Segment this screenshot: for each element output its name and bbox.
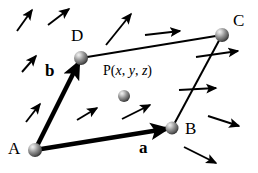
p-label-sep1: , <box>122 63 129 78</box>
sphere-A <box>28 143 42 157</box>
vector-label-a: a <box>139 139 148 156</box>
p-label-prefix: P( <box>103 63 115 78</box>
vector-label-b: b <box>45 62 54 79</box>
field-arrow <box>26 104 40 122</box>
field-arrow <box>22 56 36 72</box>
vertex-spheres <box>28 28 229 157</box>
vector-field-parallelogram-figure: A B C D P(x, y, z) a b <box>0 0 258 173</box>
point-label-P: P(x, y, z) <box>103 64 152 78</box>
figure-canvas <box>0 0 258 173</box>
parallelogram-edges <box>81 35 222 128</box>
point-label-D: D <box>71 27 83 44</box>
edge-BC <box>172 35 222 128</box>
sphere-B <box>166 122 179 135</box>
field-arrow <box>77 108 97 120</box>
sphere-C <box>215 28 229 42</box>
field-arrow <box>179 88 216 90</box>
edge-DC <box>81 35 222 58</box>
field-arrow <box>208 116 239 126</box>
p-label-sep2: , <box>135 63 142 78</box>
vector-field-arrows <box>17 9 239 163</box>
point-label-C: C <box>233 12 244 29</box>
field-arrow <box>122 105 150 119</box>
field-arrow <box>196 51 238 57</box>
field-arrow <box>106 14 131 45</box>
field-arrow <box>145 31 180 35</box>
sphere-P <box>118 90 130 102</box>
p-label-suffix: ) <box>147 63 152 78</box>
sphere-D <box>74 51 88 65</box>
vector-b <box>35 62 79 150</box>
point-label-A: A <box>8 140 20 157</box>
field-arrow <box>184 147 216 163</box>
point-label-B: B <box>185 120 196 137</box>
field-arrow <box>48 9 69 25</box>
field-arrow <box>17 10 32 31</box>
